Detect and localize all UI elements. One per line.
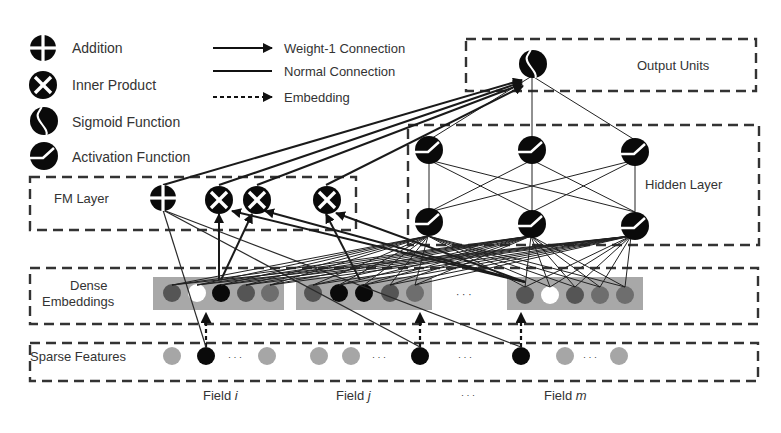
hidden-node-1-1 [415,136,443,164]
legend-inner-product: Inner Product [29,71,156,99]
deepfm-architecture-diagram: Addition Inner Product Sigmoid Function … [0,0,781,433]
embedding-arrows [206,313,521,347]
hidden-to-hidden-lines [429,160,635,212]
legend-nodes: Addition Inner Product Sigmoid Function … [29,35,190,170]
legend-activation-label: Activation Function [72,149,190,165]
output-sigmoid-node [519,50,547,78]
hidden-node-1-3 [621,138,649,166]
svg-text:· · ·: · · · [372,352,386,362]
fm-layer-label: FM Layer [54,191,110,206]
legend-addition: Addition [30,35,123,61]
legend-activation: Activation Function [30,142,190,170]
sigmoid-icon [30,107,58,135]
field-labels: Field i Field j · · · Field m [203,388,587,403]
hidden-node-2-3 [621,212,649,240]
legend-normal-label: Normal Connection [284,64,395,79]
hidden-layer-label: Hidden Layer [645,177,723,192]
sparse-features-box [30,343,758,381]
legend-sigmoid-label: Sigmoid Function [72,114,180,130]
legend-inner-product-label: Inner Product [72,77,156,93]
fm-addition-node [150,185,176,211]
fm-inner-product-node-2 [243,186,271,214]
legend-addition-label: Addition [72,40,123,56]
inner-product-icon [29,71,57,99]
fm-inner-product-node-3 [313,186,341,214]
field-m-label: Field m [544,388,587,403]
activation-icon [30,142,58,170]
sparse-features-label: Sparse Features [30,349,127,364]
field-i-label: Field i [203,388,239,403]
legend-weight-one-label: Weight-1 Connection [284,41,405,56]
embedding-ellipsis: · · · [456,289,472,300]
hidden-node-2-2 [518,210,546,238]
hidden-node-2-1 [415,208,443,236]
sparse-feature-row: · · · · · · · · · · · · [163,347,628,365]
dense-embeddings-label-2: Embeddings [42,294,115,309]
addition-icon [30,35,56,61]
legend-embedding-label: Embedding [284,90,350,105]
field-ellipsis: · · · [461,390,475,400]
output-units-label: Output Units [637,58,710,73]
svg-text:· · ·: · · · [458,352,472,362]
fm-inner-product-node-1 [205,186,233,214]
field-j-label: Field j [336,388,372,403]
legend-connections: Weight-1 Connection Normal Connection Em… [213,41,405,105]
dense-embeddings-label-1: Dense [70,278,108,293]
embedding-group-m [507,277,643,310]
svg-text:· · ·: · · · [228,352,242,362]
hidden-node-1-2 [518,136,546,164]
svg-text:· · ·: · · · [583,352,597,362]
fm-layer-nodes [150,185,341,214]
legend-sigmoid: Sigmoid Function [30,107,180,135]
